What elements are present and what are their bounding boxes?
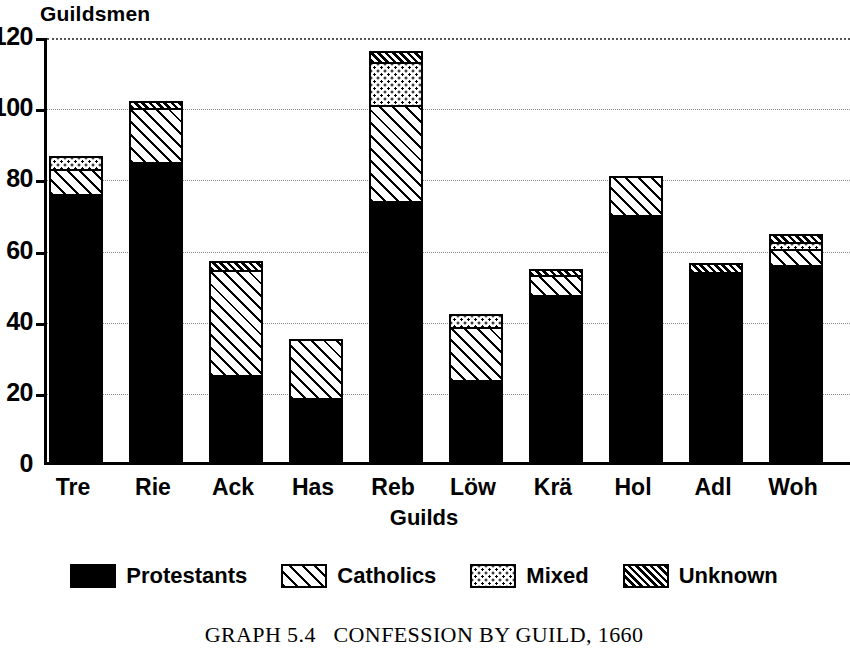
y-axis-tick — [36, 252, 47, 255]
x-axis-tick-label: Krä — [508, 474, 598, 501]
y-axis-tick — [36, 38, 47, 41]
solid-black-swatch — [70, 564, 116, 588]
plot-inner: 020406080100120 — [47, 38, 850, 462]
bar-adl — [689, 263, 743, 462]
bar-segment-protestants — [211, 375, 261, 462]
bar-segment-mixed — [451, 316, 501, 327]
legend-label: Unknown — [679, 563, 778, 589]
x-axis-tick-label: Adl — [668, 474, 758, 501]
legend-item-protestants: Protestants — [70, 563, 247, 589]
bar-segment-mixed — [771, 242, 821, 249]
bar-segment-protestants — [131, 162, 181, 462]
bar-löw — [449, 314, 503, 462]
x-axis-tick-label: Tre — [28, 474, 118, 501]
y-axis-tick — [36, 394, 47, 397]
figure-caption: GRAPH 5.4 CONFESSION BY GUILD, 1660 — [0, 622, 848, 648]
x-axis-title: Guilds — [0, 505, 848, 531]
bar-has — [289, 339, 343, 462]
dotted-swatch — [470, 564, 516, 588]
y-axis-tick — [36, 323, 47, 326]
bar-segment-mixed — [51, 158, 101, 169]
dense-hatch-swatch — [623, 564, 669, 588]
bar-segment-protestants — [451, 380, 501, 462]
bar-segment-catholics — [51, 169, 101, 194]
x-axis-tick-label: Woh — [748, 474, 838, 501]
bar-segment-protestants — [611, 215, 661, 462]
bar-segment-protestants — [51, 194, 101, 462]
bar-tre — [49, 156, 103, 462]
x-axis-tick-label: Löw — [428, 474, 518, 501]
bar-hol — [609, 176, 663, 462]
bar-segment-protestants — [531, 295, 581, 462]
gridline-top — [47, 38, 850, 40]
bar-segment-mixed — [371, 62, 421, 105]
bar-segment-protestants — [371, 201, 421, 462]
y-axis-tick-label: 20 — [0, 380, 33, 405]
bar-segment-protestants — [691, 272, 741, 462]
y-axis-title: Guildsmen — [40, 2, 150, 26]
y-axis-tick — [36, 180, 47, 183]
bar-rie — [129, 101, 183, 462]
bar-krä — [529, 269, 583, 462]
bar-segment-catholics — [451, 327, 501, 380]
bar-segment-protestants — [771, 265, 821, 462]
chart-legend: ProtestantsCatholicsMixedUnknown — [0, 563, 848, 589]
y-axis-tick-label: 0 — [0, 451, 33, 476]
x-axis-tick-label: Has — [268, 474, 358, 501]
bar-segment-unknown — [691, 265, 741, 272]
bar-segment-catholics — [131, 108, 181, 161]
legend-item-unknown: Unknown — [623, 563, 778, 589]
x-axis-tick-label: Ack — [188, 474, 278, 501]
bar-segment-catholics — [771, 249, 821, 265]
bar-segment-unknown — [371, 53, 421, 62]
y-axis-tick-label: 40 — [0, 309, 33, 334]
plot-area: 020406080100120 — [44, 38, 850, 465]
bar-segment-catholics — [371, 105, 421, 201]
legend-label: Catholics — [337, 563, 436, 589]
y-axis-tick-label: 80 — [0, 166, 33, 191]
bar-segment-catholics — [211, 270, 261, 375]
y-axis-tick-label: 100 — [0, 95, 33, 120]
x-axis-tick-label: Reb — [348, 474, 438, 501]
legend-item-catholics: Catholics — [281, 563, 436, 589]
x-axis-tick-label: Hol — [588, 474, 678, 501]
bar-segment-catholics — [531, 275, 581, 295]
bar-ack — [209, 261, 263, 462]
y-axis-tick — [36, 109, 47, 112]
bar-segment-protestants — [291, 398, 341, 462]
y-axis-tick-label: 60 — [0, 238, 33, 263]
legend-label: Mixed — [526, 563, 588, 589]
x-axis-tick-label: Rie — [108, 474, 198, 501]
legend-label: Protestants — [126, 563, 247, 589]
legend-item-mixed: Mixed — [470, 563, 588, 589]
diagonal-hatch-swatch — [281, 564, 327, 588]
bar-reb — [369, 51, 423, 462]
bar-segment-unknown — [211, 263, 261, 270]
y-axis-tick-label: 120 — [0, 24, 33, 49]
bar-woh — [769, 234, 823, 462]
bar-segment-catholics — [291, 341, 341, 398]
bar-segment-catholics — [611, 178, 661, 215]
